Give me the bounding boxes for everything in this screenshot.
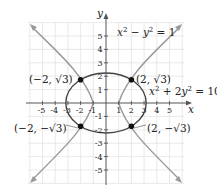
y-tick: -2: [95, 126, 103, 135]
x-tick: -4: [50, 106, 58, 115]
point-2-sqrt3: [129, 77, 135, 83]
point-neg2-negsqrt3: [78, 123, 84, 129]
y-tick: 3: [97, 59, 102, 68]
y-tick: -3: [95, 139, 103, 148]
y-tick: -5: [95, 166, 103, 175]
x-tick: 5: [167, 106, 172, 115]
y-axis-arrow-icon: [104, 13, 109, 19]
x-tick: 4: [154, 106, 159, 115]
x-tick: 1: [116, 106, 121, 115]
x-axis-label: x: [188, 103, 194, 115]
x-tick-labels: -5 -4 -3 -2 -1 1 2 3 4 5: [38, 106, 172, 115]
y-tick: -4: [95, 153, 103, 162]
x-tick: -5: [38, 106, 46, 115]
x-tick: -2: [76, 106, 84, 115]
point-label: (−2, −√3): [14, 122, 67, 134]
x-tick: -3: [63, 106, 71, 115]
y-tick: 4: [97, 45, 102, 54]
y-tick: 5: [97, 32, 102, 41]
y-tick: 1: [97, 86, 102, 95]
point-label: (2, −√3): [147, 122, 191, 134]
point-2-negsqrt3: [129, 123, 135, 129]
y-tick: -1: [95, 112, 103, 121]
x-tick: 3: [142, 106, 147, 115]
system-of-equations-graph: x y -5 -4 -3 -2 -1 1 2 3 4 5 5 4 3 2 1 -…: [0, 0, 217, 192]
ellipse-equation-label: x2 + 2y2 = 10: [149, 85, 217, 97]
point-label: (2, √3): [136, 73, 171, 85]
point-neg2-sqrt3: [78, 77, 84, 83]
x-tick: 2: [129, 106, 134, 115]
point-label: (−2, √3): [29, 73, 73, 85]
y-axis-label: y: [96, 7, 104, 19]
y-tick: 2: [97, 72, 102, 81]
